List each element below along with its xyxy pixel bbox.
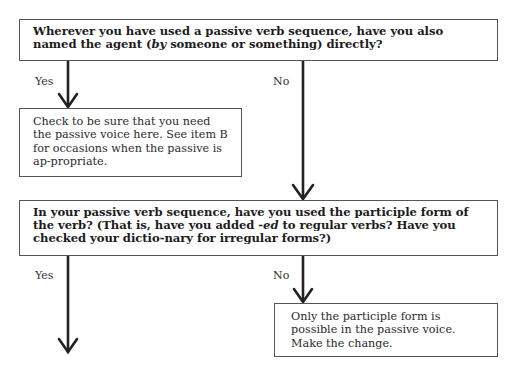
q2-yes-label: Yes — [35, 269, 53, 282]
answer2-text: Only the participle form is possible in … — [291, 310, 456, 350]
q1-part-1: by — [151, 37, 166, 51]
q2-no-label: No — [273, 269, 289, 282]
question-box-agent: Wherever you have used a passive verb se… — [19, 19, 498, 61]
q1-no-label: No — [273, 75, 289, 88]
question-box-participle: In your passive verb sequence, have you … — [19, 200, 498, 256]
q2-part-1: -ed — [258, 218, 278, 232]
answer-box-participle-change: Only the participle form is possible in … — [274, 303, 498, 357]
q1-yes-label: Yes — [35, 75, 53, 88]
answer-box-check-passive: Check to be sure that you need the passi… — [19, 108, 242, 177]
q1-part-2: someone or something) directly? — [166, 37, 382, 51]
answer1-text: Check to be sure that you need the passi… — [33, 115, 228, 168]
